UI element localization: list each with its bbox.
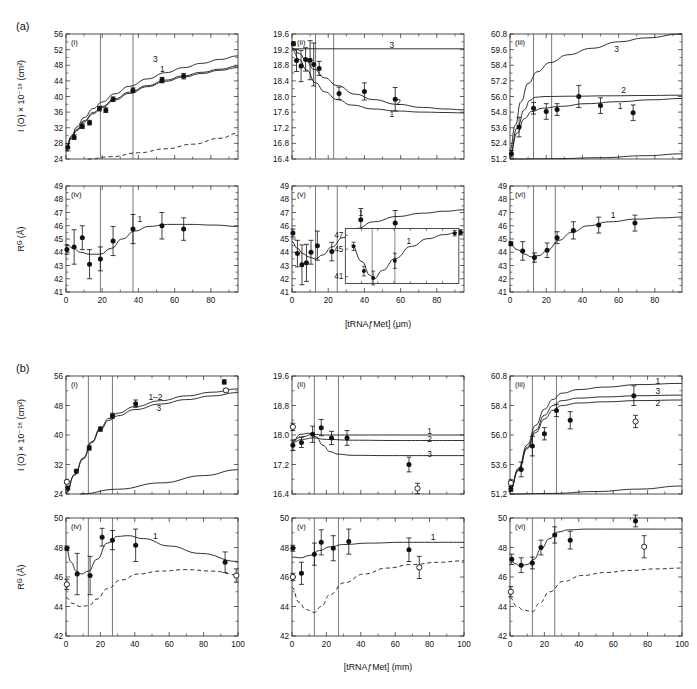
data-point-filled [517, 125, 522, 130]
y-tick-label: 41 [498, 288, 508, 297]
x-tick-label: 0 [64, 640, 69, 649]
y-tick-label: 47 [498, 209, 508, 218]
curve-label: 3 [389, 40, 394, 50]
x-tick-label: 20 [324, 296, 334, 305]
x-tick-label: 40 [134, 296, 144, 305]
panel-a-ii: 16.416.817.217.618.018.418.819.219.6(ii)… [273, 30, 464, 164]
y-tick-label: 44 [280, 248, 290, 257]
panel-tag: (i) [71, 38, 78, 47]
data-point-open [642, 544, 647, 549]
x-tick-label: 80 [206, 296, 216, 305]
y-tick-label: 50 [498, 514, 508, 523]
y-tick-label: 17.2 [273, 461, 289, 470]
inset-frame [345, 228, 459, 283]
data-point-filled [110, 538, 115, 543]
y-tick-label: 24 [54, 155, 64, 164]
curve-label: 2 [621, 85, 626, 95]
data-point-filled [299, 440, 304, 445]
data-point-filled [97, 106, 102, 111]
data-point-filled [545, 248, 550, 253]
x-tick-label: 100 [231, 640, 245, 649]
curve-3 [66, 56, 238, 149]
x-tick-label: 40 [578, 296, 588, 305]
data-point-open [64, 582, 69, 587]
data-point-filled [290, 546, 295, 551]
y-tick-label: 42 [280, 632, 290, 641]
curve-label: 3 [153, 54, 158, 64]
data-point-filled [331, 546, 336, 551]
data-point-filled [299, 64, 304, 69]
curve-1 [510, 217, 682, 257]
data-point-filled [315, 243, 320, 248]
data-point-filled [310, 432, 315, 437]
data-point-filled [111, 97, 116, 102]
data-point-filled [631, 110, 636, 115]
figure-root: 242832364044485256(i)31216.416.817.217.6… [0, 0, 697, 689]
x-tick-label: 20 [322, 640, 332, 649]
y-tick-label: 56.0 [491, 93, 507, 102]
y-tick-label: 56 [54, 30, 64, 39]
data-point-filled [554, 408, 559, 413]
y-tick-label: 56.0 [491, 431, 507, 440]
y-tick-label: 48 [54, 195, 64, 204]
y-tick-label: 42 [54, 632, 64, 641]
y-tick-label: 46 [280, 222, 290, 231]
y-tick-label: 58.4 [491, 402, 507, 411]
data-point-filled [291, 41, 296, 46]
panel-frame [292, 518, 464, 636]
data-point-filled [312, 552, 317, 557]
y-tick-label: 44 [54, 77, 64, 86]
y-tick-label: 41 [280, 288, 290, 297]
y-tick-label: 17.2 [273, 124, 289, 133]
y-tick-label: 42 [280, 275, 290, 284]
panel-a-iv: 414243444546474849020406080(iv)1 [54, 182, 238, 305]
panel-tag: (iii) [515, 380, 526, 389]
curve-label: 1–2 [148, 392, 162, 402]
data-point-filled [304, 260, 309, 265]
panel-tag: (v) [297, 190, 306, 199]
data-point-filled [64, 247, 69, 252]
panel-frame [510, 186, 682, 292]
x-tick-label: 40 [360, 296, 370, 305]
data-point-filled [406, 462, 411, 467]
y-tick-label: 19.2 [273, 46, 289, 55]
y-tick-label: 57.2 [491, 77, 507, 86]
panel-b-vi: 4244464850020406080100(vi) [498, 514, 689, 649]
x-tick-label: 40 [130, 640, 140, 649]
data-point-filled [130, 88, 135, 93]
data-point-filled [544, 109, 549, 114]
y-tick-label: 48 [54, 544, 64, 553]
curve-1 [66, 536, 238, 574]
curve-3 [510, 395, 682, 490]
data-point-filled [100, 535, 105, 540]
data-point-filled [72, 135, 77, 140]
y-tick-label: 45 [54, 235, 64, 244]
y-tick-label: 52.4 [491, 139, 507, 148]
data-point-filled [362, 89, 367, 94]
curve-label: 1 [160, 64, 165, 74]
inset-y-tick-label: 47 [334, 231, 344, 240]
data-point-filled [317, 66, 322, 71]
data-point-filled [576, 94, 581, 99]
y-tick-label: 52 [54, 46, 64, 55]
data-point-filled [98, 427, 103, 432]
y-tick-label: 46 [54, 222, 64, 231]
curve-label: 3 [656, 386, 661, 396]
data-point-filled [290, 443, 295, 448]
x-tick-label: 80 [643, 640, 653, 649]
panel-frame [66, 34, 238, 159]
data-point-open [234, 573, 239, 578]
ylabel-intensity-b: I (O) × 10⁻¹⁸ (cm²) [16, 399, 26, 471]
y-tick-label: 19.6 [273, 30, 289, 39]
y-tick-label: 51.2 [491, 490, 507, 499]
panel-letter-a: (a) [16, 20, 29, 32]
x-tick-label: 20 [540, 640, 550, 649]
data-point-filled [133, 401, 138, 406]
y-tick-label: 19.6 [273, 372, 289, 381]
inset-y-tick-label: 41 [334, 272, 344, 281]
data-point-filled [596, 223, 601, 228]
inset-curve-label: 1 [407, 236, 412, 246]
curve-label: 1 [389, 109, 394, 119]
y-tick-label: 18.8 [273, 402, 289, 411]
data-point-filled [552, 532, 557, 537]
